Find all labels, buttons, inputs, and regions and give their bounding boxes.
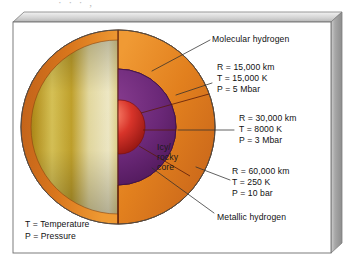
- measurement-2-pressure: P = 3 Mbar: [239, 135, 282, 146]
- measurement-2-temperature: T = 8000 K: [239, 124, 282, 135]
- planet-cutaway-sphere: [21, 30, 215, 224]
- measurement-3-radius: R = 60,000 km: [232, 166, 289, 177]
- measurement-2-radius: R = 30,000 km: [239, 113, 296, 124]
- measurement-3-temperature: T = 250 K: [232, 177, 270, 188]
- callout-molecular-hydrogen: Molecular hydrogen: [212, 34, 289, 45]
- core-label-line1: Icy/: [157, 142, 171, 152]
- measurement-1-temperature: T = 15,000 K: [217, 73, 268, 84]
- core-label-line2: rocky: [157, 152, 178, 162]
- measurement-1-pressure: P = 5 Mbar: [217, 84, 260, 95]
- figure-canvas: · · · ,: [0, 0, 349, 268]
- legend-pressure: P = Pressure: [25, 231, 76, 242]
- core-label-line3: core: [157, 162, 174, 172]
- callout-metallic-hydrogen: Metallic hydrogen: [217, 212, 286, 223]
- legend-temperature: T = Temperature: [25, 219, 89, 230]
- measurement-1-radius: R = 15,000 km: [217, 62, 274, 73]
- measurement-3-pressure: P = 10 bar: [232, 188, 273, 199]
